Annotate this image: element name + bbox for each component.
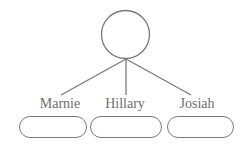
- child-label-hillary: Hillary: [105, 96, 145, 112]
- answer-box-marnie[interactable]: [19, 116, 87, 138]
- connector-marnie: [61, 59, 126, 95]
- child-label-josiah: Josiah: [180, 96, 215, 112]
- answer-box-hillary[interactable]: [90, 116, 162, 138]
- connector-josiah: [126, 59, 191, 95]
- answer-box-josiah[interactable]: [167, 116, 234, 138]
- child-label-marnie: Marnie: [40, 96, 80, 112]
- root-node-circle: [102, 11, 150, 59]
